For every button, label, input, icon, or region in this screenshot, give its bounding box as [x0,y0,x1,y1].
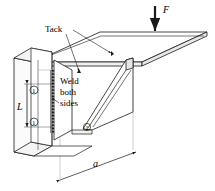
dimension-a-label: a [93,158,98,169]
gusset-plate [72,58,133,150]
weld-size-bottom-label: 1 [32,119,36,127]
weld-label-line1: Weld [60,76,79,86]
channel-web [31,48,52,146]
welded-bracket-figure: F Tack Weld both sides L [0,0,215,191]
weld-label-line2: both [60,87,77,97]
weld-size-gusset-label: 1 [85,124,89,132]
gusset-top-tab [126,58,133,70]
tack-label: Tack [45,24,63,34]
force-arrow-group: F [155,4,170,31]
weld-size-top-label: 1 [32,87,36,95]
gusset-body [83,58,133,130]
dimension-a: a [60,136,136,182]
weld-label-line3: sides [60,98,78,108]
force-label: F [162,4,170,15]
shelf-plate [34,32,207,66]
dimension-L-label: L [16,101,23,112]
bracket-drawing-canvas: F Tack Weld both sides L [0,0,215,191]
tack-mark-left [77,69,81,73]
gusset-bottom-tie [72,130,92,134]
